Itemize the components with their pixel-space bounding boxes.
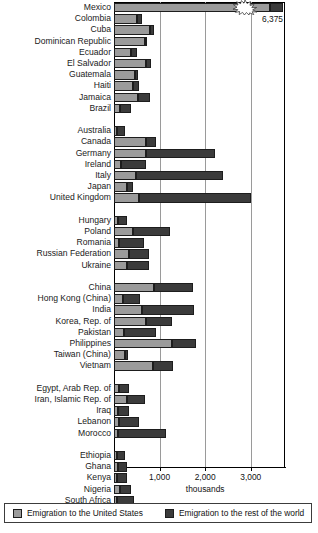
bar-segment-us <box>114 395 127 404</box>
stacked-bar <box>114 3 283 12</box>
chart-row: United Kingdom <box>0 192 318 203</box>
stacked-bar <box>114 339 196 348</box>
stacked-bar <box>114 182 133 191</box>
chart-row: Germany <box>0 148 318 159</box>
bar-segment-world <box>118 406 129 415</box>
bar-segment-us <box>114 193 139 202</box>
bar-segment-world <box>127 395 145 404</box>
chart-row: Cuba <box>0 24 318 35</box>
row-label: Hungary <box>0 215 111 226</box>
bar-segment-world <box>117 451 125 460</box>
bar-segment-world <box>119 384 128 393</box>
bar-segment-world <box>118 216 128 225</box>
row-label: Canada <box>0 136 111 147</box>
row-label: Kenya <box>0 472 111 483</box>
bar-segment-world <box>137 14 142 23</box>
bar-segment-world <box>131 48 136 57</box>
bar-segment-us <box>114 339 172 348</box>
chart-row: Australia <box>0 125 318 136</box>
stacked-bar <box>114 317 172 326</box>
row-label: Russian Federation <box>0 248 111 259</box>
chart-row: Ukraine <box>0 260 318 271</box>
stacked-bar <box>114 126 125 135</box>
stacked-bar <box>114 37 147 46</box>
stacked-bar <box>114 48 137 57</box>
bar-segment-world <box>146 149 215 158</box>
row-label: Vietnam <box>0 360 111 371</box>
x-tick-label: 3,000 <box>240 472 261 482</box>
chart-row: Dominican Republic <box>0 36 318 47</box>
stacked-bar <box>114 361 173 370</box>
stacked-bar <box>114 485 131 494</box>
stacked-bar <box>114 160 146 169</box>
bar-segment-world <box>138 93 151 102</box>
bar-segment-world <box>120 485 131 494</box>
legend-label-world: Emigration to the rest of the world <box>179 508 304 518</box>
bar-segment-world <box>124 328 156 337</box>
x-axis-title: thousands <box>186 484 225 494</box>
row-label: Korea, Rep. of <box>0 316 111 327</box>
row-label: El Salvador <box>0 58 111 69</box>
chart-row: Canada <box>0 136 318 147</box>
stacked-bar <box>114 25 154 34</box>
chart-row: Iraq <box>0 405 318 416</box>
row-label: Philippines <box>0 338 111 349</box>
bar-segment-world <box>172 339 196 348</box>
bar-segment-world <box>129 249 149 258</box>
row-label: Cuba <box>0 24 111 35</box>
bar-segment-us <box>114 283 154 292</box>
row-label: Iraq <box>0 405 111 416</box>
stacked-bar <box>114 70 138 79</box>
chart-row: Morocco <box>0 428 318 439</box>
bar-segment-us <box>114 182 127 191</box>
bar-segment-world <box>145 37 147 46</box>
chart-row: Poland <box>0 226 318 237</box>
legend-item-world: Emigration to the rest of the world <box>165 508 304 518</box>
chart-row: Philippines <box>0 338 318 349</box>
x-tick-mark <box>160 468 161 471</box>
row-label: Taiwan (China) <box>0 349 111 360</box>
bar-segment-us <box>114 93 138 102</box>
stacked-bar <box>114 249 149 258</box>
stacked-bar <box>114 216 127 225</box>
bar-segment-us <box>114 317 146 326</box>
stacked-bar <box>114 328 156 337</box>
stacked-bar <box>114 81 139 90</box>
bar-segment-world <box>117 126 125 135</box>
bar-segment-world <box>119 417 139 426</box>
row-label: Japan <box>0 181 111 192</box>
stacked-bar <box>114 451 125 460</box>
stacked-bar <box>114 305 194 314</box>
row-label: Ghana <box>0 461 111 472</box>
chart-row: Italy <box>0 170 318 181</box>
bar-segment-us <box>114 294 123 303</box>
row-label: Haiti <box>0 80 111 91</box>
stacked-bar <box>114 104 131 113</box>
row-label: Ecuador <box>0 47 111 58</box>
chart-row: Hungary <box>0 215 318 226</box>
bar-segment-world <box>119 238 144 247</box>
row-label: Iran, Islamic Rep. of <box>0 394 111 405</box>
chart-row: Hong Kong (China) <box>0 293 318 304</box>
x-tick-label: 1,000 <box>149 472 170 482</box>
chart-row: Taiwan (China) <box>0 349 318 360</box>
chart-row: El Salvador <box>0 58 318 69</box>
legend-item-us: Emigration to the United States <box>13 508 143 518</box>
row-label: Guatemala <box>0 69 111 80</box>
emigration-stacked-bar-chart: 6,375MexicoColombiaCubaDominican Republi… <box>0 0 318 533</box>
chart-row: Brazil <box>0 103 318 114</box>
row-label: Pakistan <box>0 327 111 338</box>
bar-segment-us <box>114 350 125 359</box>
row-label: Nigeria <box>0 484 111 495</box>
stacked-bar <box>114 384 129 393</box>
stacked-bar <box>114 350 128 359</box>
legend-swatch-us-icon <box>13 509 22 518</box>
row-label: Brazil <box>0 103 111 114</box>
stacked-bar <box>114 395 145 404</box>
stacked-bar <box>114 149 215 158</box>
row-label: Dominican Republic <box>0 36 111 47</box>
bar-segment-world <box>133 81 139 90</box>
row-label: Romania <box>0 237 111 248</box>
row-label: China <box>0 282 111 293</box>
stacked-bar <box>114 14 142 23</box>
